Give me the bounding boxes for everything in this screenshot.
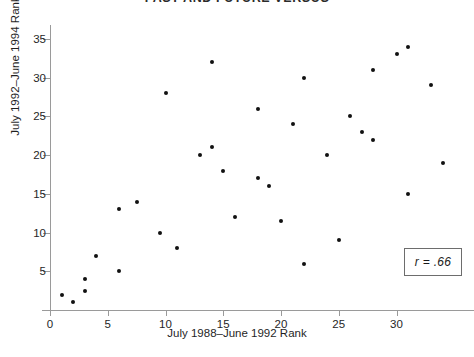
data-point <box>221 169 225 173</box>
data-point <box>302 262 306 266</box>
data-point <box>267 184 271 188</box>
correlation-value: r = .66 <box>415 255 451 269</box>
data-point <box>348 114 352 118</box>
data-point <box>337 238 341 242</box>
data-point <box>302 76 306 80</box>
data-point <box>83 289 87 293</box>
data-point <box>210 60 214 64</box>
data-point <box>117 269 121 273</box>
data-point <box>83 277 87 281</box>
y-axis-label: July 1992–June 1994 Rank <box>9 0 21 166</box>
data-point <box>360 130 364 134</box>
y-axis-tick-label: 10 <box>33 227 46 239</box>
data-point <box>164 91 168 95</box>
x-axis-tick <box>50 310 51 316</box>
chart-title: PAST AND FUTURE VERSUS <box>0 0 474 5</box>
data-point <box>291 122 295 126</box>
data-point <box>117 207 121 211</box>
data-point <box>371 138 375 142</box>
data-point <box>406 192 410 196</box>
scatter-plot-figure: PAST AND FUTURE VERSUS 5101520253035 051… <box>0 0 474 357</box>
data-point <box>158 231 162 235</box>
data-point <box>210 145 214 149</box>
x-axis-tick <box>339 310 340 316</box>
y-axis-tick-label: 35 <box>33 33 46 45</box>
data-point <box>60 293 64 297</box>
y-axis-tick-label: 5 <box>40 265 46 277</box>
x-axis-label: July 1988–June 1992 Rank <box>0 327 474 339</box>
x-axis-tick <box>166 310 167 316</box>
x-axis-tick <box>108 310 109 316</box>
data-point <box>233 215 237 219</box>
data-point <box>441 161 445 165</box>
y-axis-tick-label: 15 <box>33 188 46 200</box>
correlation-annotation-box: r = .66 <box>404 248 462 276</box>
data-point <box>256 107 260 111</box>
data-point <box>279 219 283 223</box>
data-point <box>429 83 433 87</box>
data-point <box>71 300 75 304</box>
data-point <box>406 45 410 49</box>
y-axis-tick-label: 30 <box>33 72 46 84</box>
x-axis-line: 051015202530 <box>42 310 474 311</box>
data-point <box>198 153 202 157</box>
x-axis-tick <box>223 310 224 316</box>
data-point <box>256 176 260 180</box>
data-point <box>135 200 139 204</box>
data-point <box>371 68 375 72</box>
data-point <box>395 52 399 56</box>
y-axis-tick-label: 25 <box>33 110 46 122</box>
data-point <box>325 153 329 157</box>
x-axis-tick <box>397 310 398 316</box>
data-point <box>94 254 98 258</box>
data-point <box>175 246 179 250</box>
x-axis-tick <box>281 310 282 316</box>
y-axis-tick-label: 20 <box>33 149 46 161</box>
